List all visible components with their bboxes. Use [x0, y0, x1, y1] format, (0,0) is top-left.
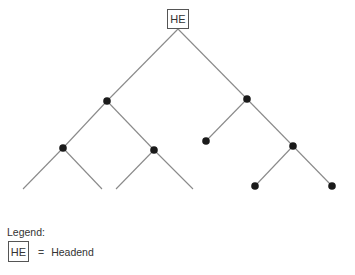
- legend-symbol-label: HE: [11, 246, 26, 258]
- legend-headend-symbol: HE: [8, 241, 29, 262]
- tree-edge: [255, 146, 293, 186]
- tree-edge: [206, 99, 247, 141]
- tree-node: [150, 146, 158, 154]
- legend-label: Headend: [51, 246, 94, 258]
- tree-node: [243, 95, 251, 103]
- tree-edge: [63, 101, 107, 148]
- tree-edges: [23, 29, 332, 189]
- tree-edge: [154, 150, 193, 189]
- tree-node: [251, 182, 259, 190]
- tree-edge: [178, 29, 247, 99]
- tree-nodes: [59, 95, 336, 190]
- tree-edge: [247, 99, 293, 146]
- tree-node: [103, 97, 111, 105]
- tree-edge: [107, 101, 154, 150]
- tree-edge: [63, 148, 102, 189]
- legend-equals: =: [38, 246, 44, 258]
- tree-node: [202, 137, 210, 145]
- tree-node: [59, 144, 67, 152]
- tree-diagram: [0, 0, 355, 275]
- legend-item-headend: HE = Headend: [8, 241, 94, 262]
- legend-title: Legend:: [7, 226, 45, 238]
- headend-label: HE: [170, 13, 185, 25]
- tree-edge: [107, 29, 178, 101]
- tree-edge: [293, 146, 332, 186]
- tree-node: [289, 142, 297, 150]
- tree-node: [328, 182, 336, 190]
- tree-edge: [23, 148, 63, 189]
- headend-node: HE: [167, 9, 189, 29]
- tree-edge: [116, 150, 154, 189]
